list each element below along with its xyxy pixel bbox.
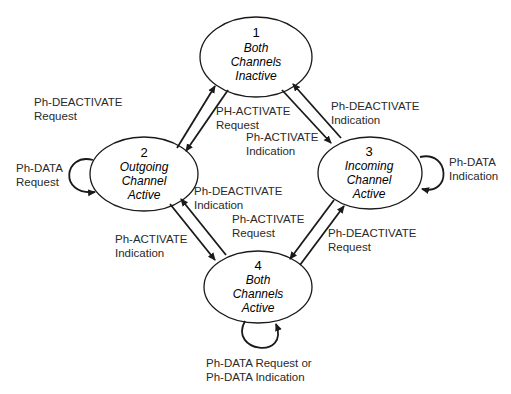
label-line: Ph-DATA Request or	[206, 356, 312, 370]
label-line: Ph-DATA	[16, 161, 63, 175]
state-1-number: 1	[252, 25, 259, 40]
label-line: Ph-DEACTIVATE	[194, 184, 282, 198]
label-3-self: Ph-DATA Indication	[449, 155, 498, 183]
label-line: Ph-ACTIVATE	[246, 130, 318, 144]
state-3: 3 Incoming Channel Active	[318, 137, 422, 209]
label-line: Indication	[449, 169, 498, 183]
label-3-to-4: Ph-ACTIVATE Request	[232, 212, 304, 240]
label-2-to-4: Ph-ACTIVATE Indication	[115, 232, 187, 260]
state-2-number: 2	[140, 145, 147, 160]
self-loop-2	[69, 159, 95, 192]
label-line: Request	[16, 175, 63, 189]
state-3-line-2: Channel	[347, 173, 392, 187]
state-4-line-2: Channels	[233, 287, 284, 301]
label-line: Ph-DEACTIVATE	[331, 99, 419, 113]
state-3-line-1: Incoming	[345, 159, 394, 173]
label-line: Request	[328, 240, 416, 254]
state-1-line-1: Both	[244, 41, 269, 55]
label-4-to-3: Ph-DEACTIVATE Request	[328, 226, 416, 254]
label-line: Indication	[115, 246, 187, 260]
state-4: 4 Both Channels Active	[204, 251, 312, 323]
label-line: Indication	[194, 198, 282, 212]
label-1-to-3: Ph-ACTIVATE Indication	[246, 130, 318, 158]
label-line: Ph-DEACTIVATE	[328, 226, 416, 240]
label-2-self: Ph-DATA Request	[16, 161, 63, 189]
state-1-line-3: Inactive	[235, 69, 277, 83]
label-line: Ph-ACTIVATE	[115, 232, 187, 246]
label-line: Ph-ACTIVATE	[232, 212, 304, 226]
label-line: PH-ACTIVATE	[216, 104, 290, 118]
label-4-to-2: Ph-DEACTIVATE Indication	[194, 184, 282, 212]
label-line: Ph-DATA	[449, 155, 498, 169]
label-line: Request	[34, 109, 122, 123]
label-line: Indication	[246, 144, 318, 158]
state-1: 1 Both Channels Inactive	[200, 17, 312, 97]
label-4-self: Ph-DATA Request or Ph-DATA Indication	[206, 356, 312, 384]
state-4-number: 4	[254, 258, 261, 273]
state-2-line-3: Active	[127, 188, 161, 202]
self-loop-3	[420, 156, 444, 189]
self-loop-4	[242, 321, 278, 348]
label-2-to-1: Ph-DEACTIVATE Request	[34, 95, 122, 123]
state-2-line-2: Channel	[122, 174, 167, 188]
state-2-line-1: Outgoing	[120, 160, 169, 174]
label-1-to-2: PH-ACTIVATE Request	[216, 104, 290, 132]
label-line: Ph-DATA Indication	[206, 370, 312, 384]
state-3-line-3: Active	[352, 187, 386, 201]
label-3-to-1: Ph-DEACTIVATE Indication	[331, 99, 419, 127]
state-1-line-2: Channels	[231, 55, 282, 69]
state-3-number: 3	[365, 144, 372, 159]
label-line: Request	[232, 226, 304, 240]
state-4-line-1: Both	[246, 273, 271, 287]
label-line: Indication	[331, 113, 419, 127]
label-line: Ph-DEACTIVATE	[34, 95, 122, 109]
state-4-line-3: Active	[241, 301, 275, 315]
